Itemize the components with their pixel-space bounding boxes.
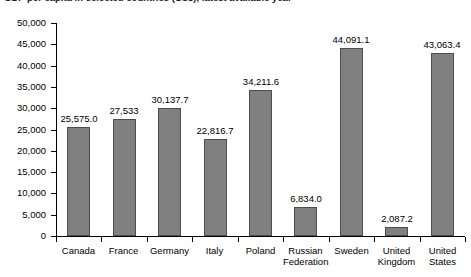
bar (158, 108, 181, 236)
bar (431, 53, 454, 236)
x-tick-mark (329, 237, 330, 242)
x-tick-mark (374, 237, 375, 242)
x-category-label: United Kingdom (374, 245, 419, 267)
plot-area: 05,00010,00015,00020,00025,00030,00035,0… (0, 0, 471, 277)
x-category-label: Russian Federation (283, 245, 328, 267)
y-tick-label: 35,000 (17, 82, 46, 92)
bar-value-label: 6,834.0 (276, 194, 336, 204)
y-tick-label: 20,000 (17, 146, 46, 156)
bar-value-label: 43,063.4 (412, 40, 471, 50)
y-tick-label: 45,000 (17, 39, 46, 49)
bar (340, 48, 363, 236)
bar-value-label: 27,533 (94, 106, 154, 116)
y-tick-mark (51, 215, 56, 216)
x-category-label: Canada (56, 245, 101, 256)
x-category-label: Germany (147, 245, 192, 256)
y-tick-mark (51, 193, 56, 194)
y-tick-label: 30,000 (17, 103, 46, 113)
x-tick-mark (238, 237, 239, 242)
x-tick-mark (147, 237, 148, 242)
x-category-label: United States (420, 245, 465, 267)
y-tick-mark (51, 108, 56, 109)
y-axis-line (56, 23, 57, 237)
x-category-label: Poland (238, 245, 283, 256)
bar (249, 90, 272, 236)
bar-value-label: 44,091.1 (321, 35, 381, 45)
bar-value-label: 30,137.7 (140, 95, 200, 105)
x-category-label: Italy (192, 245, 237, 256)
y-tick-mark (51, 130, 56, 131)
bar-value-label: 2,087.2 (367, 214, 427, 224)
x-category-label: France (101, 245, 146, 256)
bar (385, 227, 408, 236)
y-tick-mark (51, 151, 56, 152)
y-tick-label: 5,000 (22, 210, 46, 220)
y-tick-mark (51, 66, 56, 67)
bar (204, 139, 227, 236)
y-tick-label: 15,000 (17, 167, 46, 177)
bar-value-label: 34,211.6 (231, 77, 291, 87)
y-tick-mark (51, 44, 56, 45)
y-tick-label: 0 (41, 231, 46, 241)
x-tick-mark (101, 237, 102, 242)
x-axis-line (56, 236, 465, 237)
y-tick-mark (51, 172, 56, 173)
x-tick-mark (465, 237, 466, 242)
x-category-label: Sweden (329, 245, 374, 256)
y-tick-label: 25,000 (17, 125, 46, 135)
bar (113, 119, 136, 236)
y-tick-label: 10,000 (17, 188, 46, 198)
x-tick-mark (420, 237, 421, 242)
x-tick-mark (192, 237, 193, 242)
bar (67, 127, 90, 236)
y-tick-label: 50,000 (17, 18, 46, 28)
bar-chart-figure: GDP per capita in selected countries (US… (0, 0, 471, 277)
y-tick-mark (51, 87, 56, 88)
y-tick-label: 40,000 (17, 61, 46, 71)
y-tick-mark (51, 23, 56, 24)
x-tick-mark (56, 237, 57, 242)
bar-value-label: 22,816.7 (185, 126, 245, 136)
x-tick-mark (283, 237, 284, 242)
bar (294, 207, 317, 236)
